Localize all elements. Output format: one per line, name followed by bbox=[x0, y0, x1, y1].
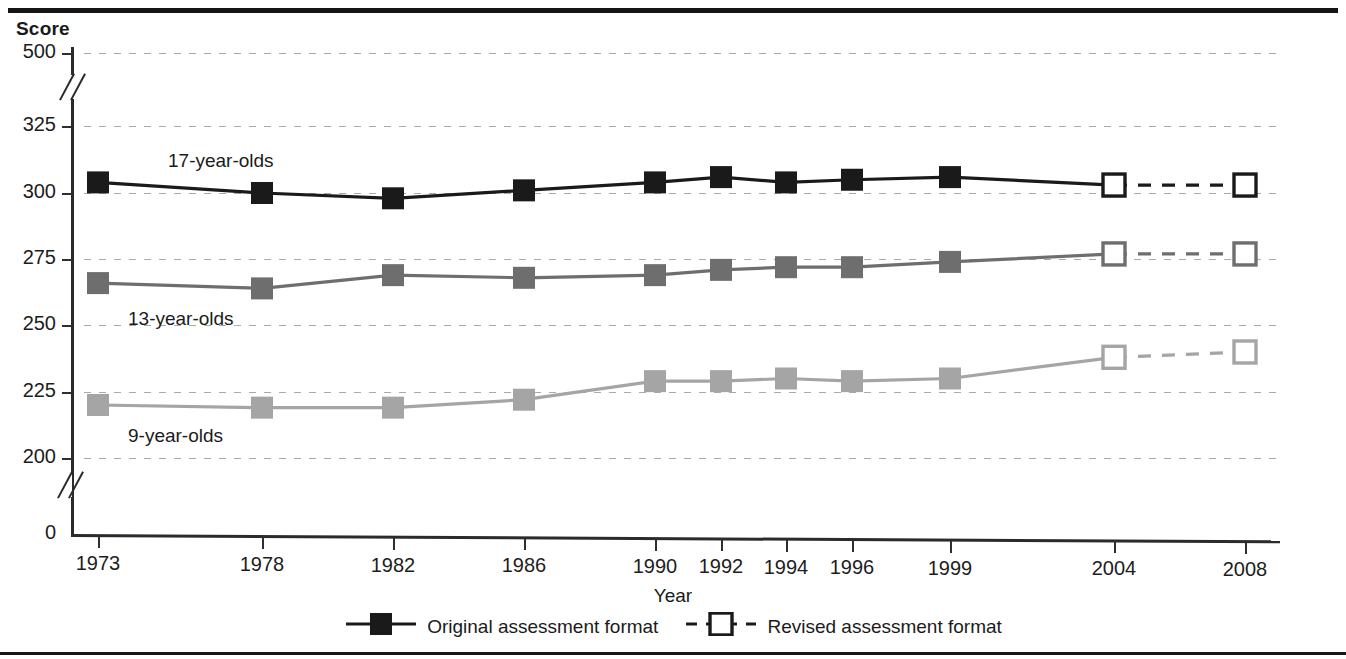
data-point-marker bbox=[513, 267, 535, 289]
x-tick-label: 2004 bbox=[1078, 557, 1150, 579]
series-annotation: 9-year-olds bbox=[128, 425, 223, 447]
series-annotation: 13-year-olds bbox=[128, 308, 234, 330]
data-point-marker bbox=[841, 169, 863, 191]
x-tick-mark bbox=[524, 538, 526, 550]
legend-open-square-icon bbox=[684, 612, 758, 641]
x-tick-mark bbox=[1114, 541, 1116, 553]
data-point-marker bbox=[841, 256, 863, 278]
data-point-marker bbox=[513, 179, 535, 201]
data-point-marker bbox=[939, 368, 961, 390]
x-tick-mark bbox=[393, 538, 395, 550]
x-tick-mark bbox=[721, 539, 723, 551]
legend-filled-square-icon bbox=[344, 612, 418, 641]
x-tick-mark bbox=[1245, 542, 1247, 554]
x-tick-label: 2008 bbox=[1209, 558, 1281, 580]
data-point-marker bbox=[251, 277, 273, 299]
x-tick-label: 1990 bbox=[619, 555, 691, 577]
data-point-marker-open bbox=[1234, 174, 1256, 196]
x-tick-label: 1999 bbox=[914, 557, 986, 579]
x-tick-label: 1978 bbox=[226, 553, 298, 575]
data-point-marker bbox=[939, 251, 961, 273]
data-point-marker bbox=[710, 370, 732, 392]
data-point-marker-open bbox=[1234, 243, 1256, 265]
series-annotation: 17-year-olds bbox=[168, 150, 274, 172]
data-point-marker bbox=[939, 166, 961, 188]
data-point-marker bbox=[775, 368, 797, 390]
data-point-marker bbox=[841, 370, 863, 392]
x-tick-mark bbox=[655, 539, 657, 551]
data-point-marker bbox=[710, 166, 732, 188]
data-point-marker-open bbox=[1103, 174, 1125, 196]
data-point-marker bbox=[644, 171, 666, 193]
data-point-marker bbox=[644, 370, 666, 392]
series-17-year-olds bbox=[87, 166, 1256, 209]
data-point-marker bbox=[87, 394, 109, 416]
x-tick-label: 1994 bbox=[750, 556, 822, 578]
data-point-marker-open bbox=[1103, 243, 1125, 265]
data-point-marker bbox=[382, 264, 404, 286]
data-point-marker bbox=[644, 264, 666, 286]
x-axis-title: Year bbox=[0, 585, 1346, 607]
bottom-rule-divider bbox=[0, 652, 1346, 655]
x-tick-label: 1982 bbox=[357, 554, 429, 576]
data-point-marker bbox=[775, 256, 797, 278]
series-13-year-olds bbox=[87, 243, 1256, 299]
legend-item: Revised assessment format bbox=[684, 612, 1001, 641]
x-tick-mark bbox=[786, 540, 788, 552]
chart-page: Score 0200225250275300325500 17-year-old… bbox=[0, 0, 1346, 659]
legend-label: Original assessment format bbox=[427, 616, 658, 638]
legend-item: Original assessment format bbox=[344, 612, 658, 641]
data-point-marker bbox=[251, 397, 273, 419]
data-point-marker bbox=[251, 182, 273, 204]
chart-legend: Original assessment formatRevised assess… bbox=[0, 612, 1346, 641]
data-point-marker bbox=[382, 397, 404, 419]
data-point-marker bbox=[710, 259, 732, 281]
data-point-marker bbox=[513, 389, 535, 411]
legend-label: Revised assessment format bbox=[767, 616, 1001, 638]
data-point-marker bbox=[775, 171, 797, 193]
series-9-year-olds bbox=[87, 341, 1256, 419]
data-point-marker bbox=[87, 171, 109, 193]
x-tick-label: 1986 bbox=[488, 554, 560, 576]
data-point-marker bbox=[87, 272, 109, 294]
data-point-marker-open bbox=[1234, 341, 1256, 363]
data-point-marker bbox=[382, 187, 404, 209]
x-tick-mark bbox=[262, 537, 264, 549]
x-tick-label: 1996 bbox=[816, 556, 888, 578]
data-point-marker-open bbox=[1103, 346, 1125, 368]
x-tick-mark bbox=[950, 541, 952, 553]
x-tick-mark bbox=[98, 536, 100, 548]
x-tick-label: 1973 bbox=[62, 552, 134, 574]
x-tick-label: 1992 bbox=[685, 555, 757, 577]
x-tick-mark bbox=[852, 540, 854, 552]
